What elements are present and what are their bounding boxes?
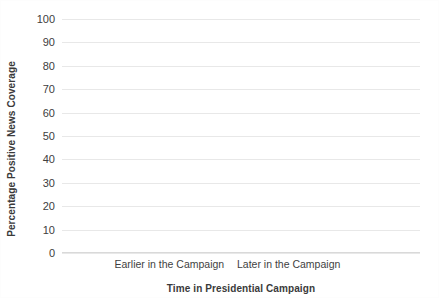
y-axis-tick-label: 0	[9, 247, 55, 259]
line-chart: Percentage Positive News Coverage Time i…	[0, 0, 439, 298]
y-axis-tick-label: 50	[9, 130, 55, 142]
y-axis-tick-label: 20	[9, 200, 55, 212]
y-axis-tick-label: 70	[9, 83, 55, 95]
x-axis-tick-label: Later in the Campaign	[237, 258, 340, 270]
x-axis-title: Time in Presidential Campaign	[62, 283, 420, 294]
y-axis-tick-label: 10	[9, 224, 55, 236]
x-axis-tick-label: Earlier in the Campaign	[114, 258, 224, 270]
y-axis-tick-label: 100	[9, 13, 55, 25]
y-axis-tick-label: 40	[9, 153, 55, 165]
y-axis-tick-label: 90	[9, 36, 55, 48]
gridline	[62, 253, 420, 254]
y-axis-tick-label: 80	[9, 60, 55, 72]
y-axis-tick-label: 60	[9, 107, 55, 119]
y-axis-tick-labels: 1009080706050403020100	[0, 19, 55, 253]
y-axis-tick-label: 30	[9, 177, 55, 189]
plot-area	[62, 19, 420, 253]
series-line-layer	[62, 19, 420, 253]
x-axis-tick-labels: Earlier in the CampaignLater in the Camp…	[62, 258, 420, 274]
